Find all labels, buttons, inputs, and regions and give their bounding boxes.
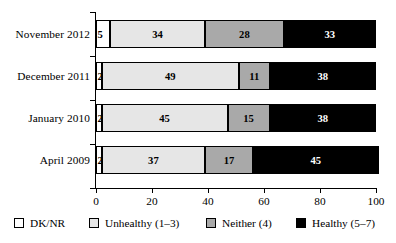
y-axis-tick xyxy=(90,12,96,13)
chart-legend: DK/NR Unhealthy (1–3) Neither (4) Health… xyxy=(0,212,396,234)
legend-item-healthy: Healthy (5–7) xyxy=(296,212,375,234)
bar-segment-value: 2 xyxy=(98,113,103,124)
bar-segment-neither-4: 28 xyxy=(205,20,283,48)
category-label-april-2009: April 2009 xyxy=(0,146,90,174)
x-axis-tick xyxy=(152,188,153,193)
category-axis-labels: November 2012 December 2011 January 2010… xyxy=(0,20,90,188)
legend-item-dknr: DK/NR xyxy=(14,212,65,234)
bar-segment-value: 34 xyxy=(152,29,163,40)
bar-segment-unhealthy-1-3: 49 xyxy=(102,62,239,90)
bar-segment-value: 5 xyxy=(98,29,103,40)
x-axis-tick-label: 100 xyxy=(356,195,396,207)
bar-segment-value: 33 xyxy=(324,29,335,40)
bar-segment-value: 49 xyxy=(165,71,176,82)
bar-segment-neither-4: 15 xyxy=(228,104,270,132)
legend-swatch-icon xyxy=(14,218,24,228)
legend-swatch-icon xyxy=(89,218,99,228)
plot-area: 5342833249113824515382371745 02040608010… xyxy=(96,12,376,188)
bar-segment-value: 15 xyxy=(243,113,254,124)
legend-label-unhealthy: Unhealthy (1–3) xyxy=(105,217,179,229)
bar-segment-unhealthy-1-3: 37 xyxy=(102,146,206,174)
bar-segment-value: 45 xyxy=(159,113,170,124)
legend-label-healthy: Healthy (5–7) xyxy=(312,217,375,229)
bar-segment-value: 2 xyxy=(98,155,103,166)
legend-swatch-icon xyxy=(296,218,306,228)
bar-row-december-2011: 2491138 xyxy=(96,62,376,90)
legend-item-neither: Neither (4) xyxy=(206,212,272,234)
legend-swatch-icon xyxy=(206,218,216,228)
x-axis-tick-label: 60 xyxy=(244,195,284,207)
category-label-december-2011: December 2011 xyxy=(0,62,90,90)
bar-segment-value: 2 xyxy=(98,71,103,82)
bar-row-january-2010: 2451538 xyxy=(96,104,376,132)
bar-segment-value: 17 xyxy=(224,155,235,166)
y-axis-tick xyxy=(90,144,96,145)
x-axis-tick xyxy=(208,188,209,193)
bar-segment-value: 37 xyxy=(148,155,159,166)
x-axis-tick xyxy=(376,188,377,193)
x-axis-tick xyxy=(96,188,97,193)
x-axis-tick-label: 80 xyxy=(300,195,340,207)
x-axis-tick-label: 40 xyxy=(188,195,228,207)
x-axis-tick xyxy=(264,188,265,193)
x-axis-tick-label: 20 xyxy=(132,195,172,207)
x-axis-tick xyxy=(320,188,321,193)
bar-segment-healthy-5-7: 38 xyxy=(270,62,376,90)
bar-segment-value: 28 xyxy=(239,29,250,40)
legend-item-unhealthy: Unhealthy (1–3) xyxy=(89,212,179,234)
x-axis-tick-label: 0 xyxy=(76,195,116,207)
bar-segment-unhealthy-1-3: 45 xyxy=(102,104,228,132)
bar-segment-value: 11 xyxy=(249,71,259,82)
y-axis-tick xyxy=(90,100,96,101)
bar-segment-neither-4: 17 xyxy=(205,146,253,174)
y-axis-tick xyxy=(90,56,96,57)
bar-segment-healthy-5-7: 38 xyxy=(270,104,376,132)
bar-segment-neither-4: 11 xyxy=(239,62,270,90)
bar-segment-healthy-5-7: 45 xyxy=(253,146,379,174)
bar-row-april-2009: 2371745 xyxy=(96,146,376,174)
bar-segment-value: 38 xyxy=(317,71,328,82)
bar-segment-value: 38 xyxy=(317,113,328,124)
legend-label-neither: Neither (4) xyxy=(222,217,272,229)
category-label-january-2010: January 2010 xyxy=(0,104,90,132)
bar-row-november-2012: 5342833 xyxy=(96,20,376,48)
bar-segment-unhealthy-1-3: 34 xyxy=(110,20,205,48)
bar-segment-healthy-5-7: 33 xyxy=(284,20,376,48)
category-label-november-2012: November 2012 xyxy=(0,20,90,48)
bar-segment-value: 45 xyxy=(311,155,322,166)
legend-label-dknr: DK/NR xyxy=(30,217,65,229)
x-axis-line xyxy=(95,188,376,189)
stacked-bar-chart: November 2012 December 2011 January 2010… xyxy=(0,0,396,243)
